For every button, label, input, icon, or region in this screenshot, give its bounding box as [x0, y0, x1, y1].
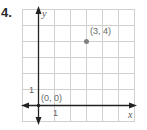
y-axis-label: y — [41, 8, 47, 19]
coordinate-plane: y x 1 1 (3, 4) (0, 0) — [0, 0, 147, 130]
data-point-3-4 — [84, 39, 89, 44]
point-label-origin: (0, 0) — [41, 93, 62, 103]
point-label-3-4: (3, 4) — [90, 26, 111, 36]
y-tick-label-1: 1 — [29, 85, 34, 95]
origin-point — [37, 104, 41, 108]
x-tick-label-1: 1 — [53, 108, 58, 118]
x-axis-right-arrow-icon — [129, 103, 137, 109]
x-axis-label: x — [127, 109, 133, 120]
